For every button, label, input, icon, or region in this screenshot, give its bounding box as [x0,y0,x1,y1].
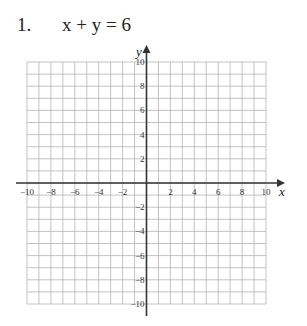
x-tick-label: 4 [192,187,197,197]
y-tick-label: 6 [140,105,145,115]
y-tick-label: −6 [135,251,145,261]
x-tick-label: 6 [216,187,221,197]
coordinate-grid: xy −10−8−6−4−2246810108642−2−4−6−8−10 [0,0,307,326]
x-tick-label: 2 [168,187,173,197]
y-tick-label: −2 [135,202,145,212]
x-tick-label: 10 [262,187,272,197]
y-tick-label: 8 [140,81,145,91]
y-tick-label: 10 [136,57,146,67]
y-tick-label: −10 [130,299,145,309]
x-tick-label: 8 [240,187,245,197]
x-tick-label: −10 [20,187,35,197]
y-axis-arrow-icon [143,45,151,53]
y-tick-label: −4 [135,226,145,236]
x-axis-label: x [278,184,285,199]
y-tick-label: 2 [140,154,145,164]
x-tick-label: −2 [118,187,128,197]
x-tick-label: −8 [46,187,56,197]
x-tick-label: −4 [94,187,104,197]
y-tick-label: 4 [140,130,145,140]
y-tick-label: −8 [135,275,145,285]
x-tick-label: −6 [70,187,80,197]
axes: xy [16,44,285,316]
